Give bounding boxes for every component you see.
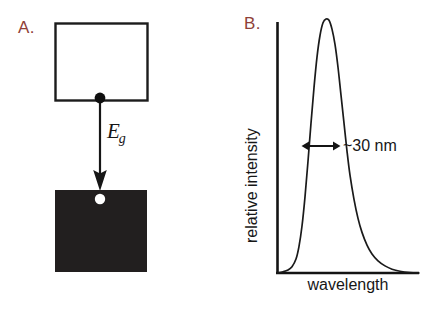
fwhm-value-label: ~30 nm xyxy=(343,137,397,155)
fwhm-double-arrow xyxy=(302,142,341,151)
figure-container: A. Eg B. ~30 nm wavelength relative inte… xyxy=(0,0,437,309)
y-axis-label: relative intensity xyxy=(243,225,261,243)
x-axis-label: wavelength xyxy=(277,276,419,294)
